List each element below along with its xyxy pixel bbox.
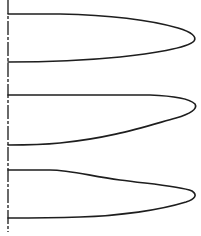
profile-diagram — [0, 0, 201, 236]
profile-curve-1 — [8, 14, 195, 62]
diagram-canvas — [0, 0, 201, 236]
profile-curve-2 — [8, 95, 196, 145]
profile-curve-3 — [8, 170, 195, 218]
